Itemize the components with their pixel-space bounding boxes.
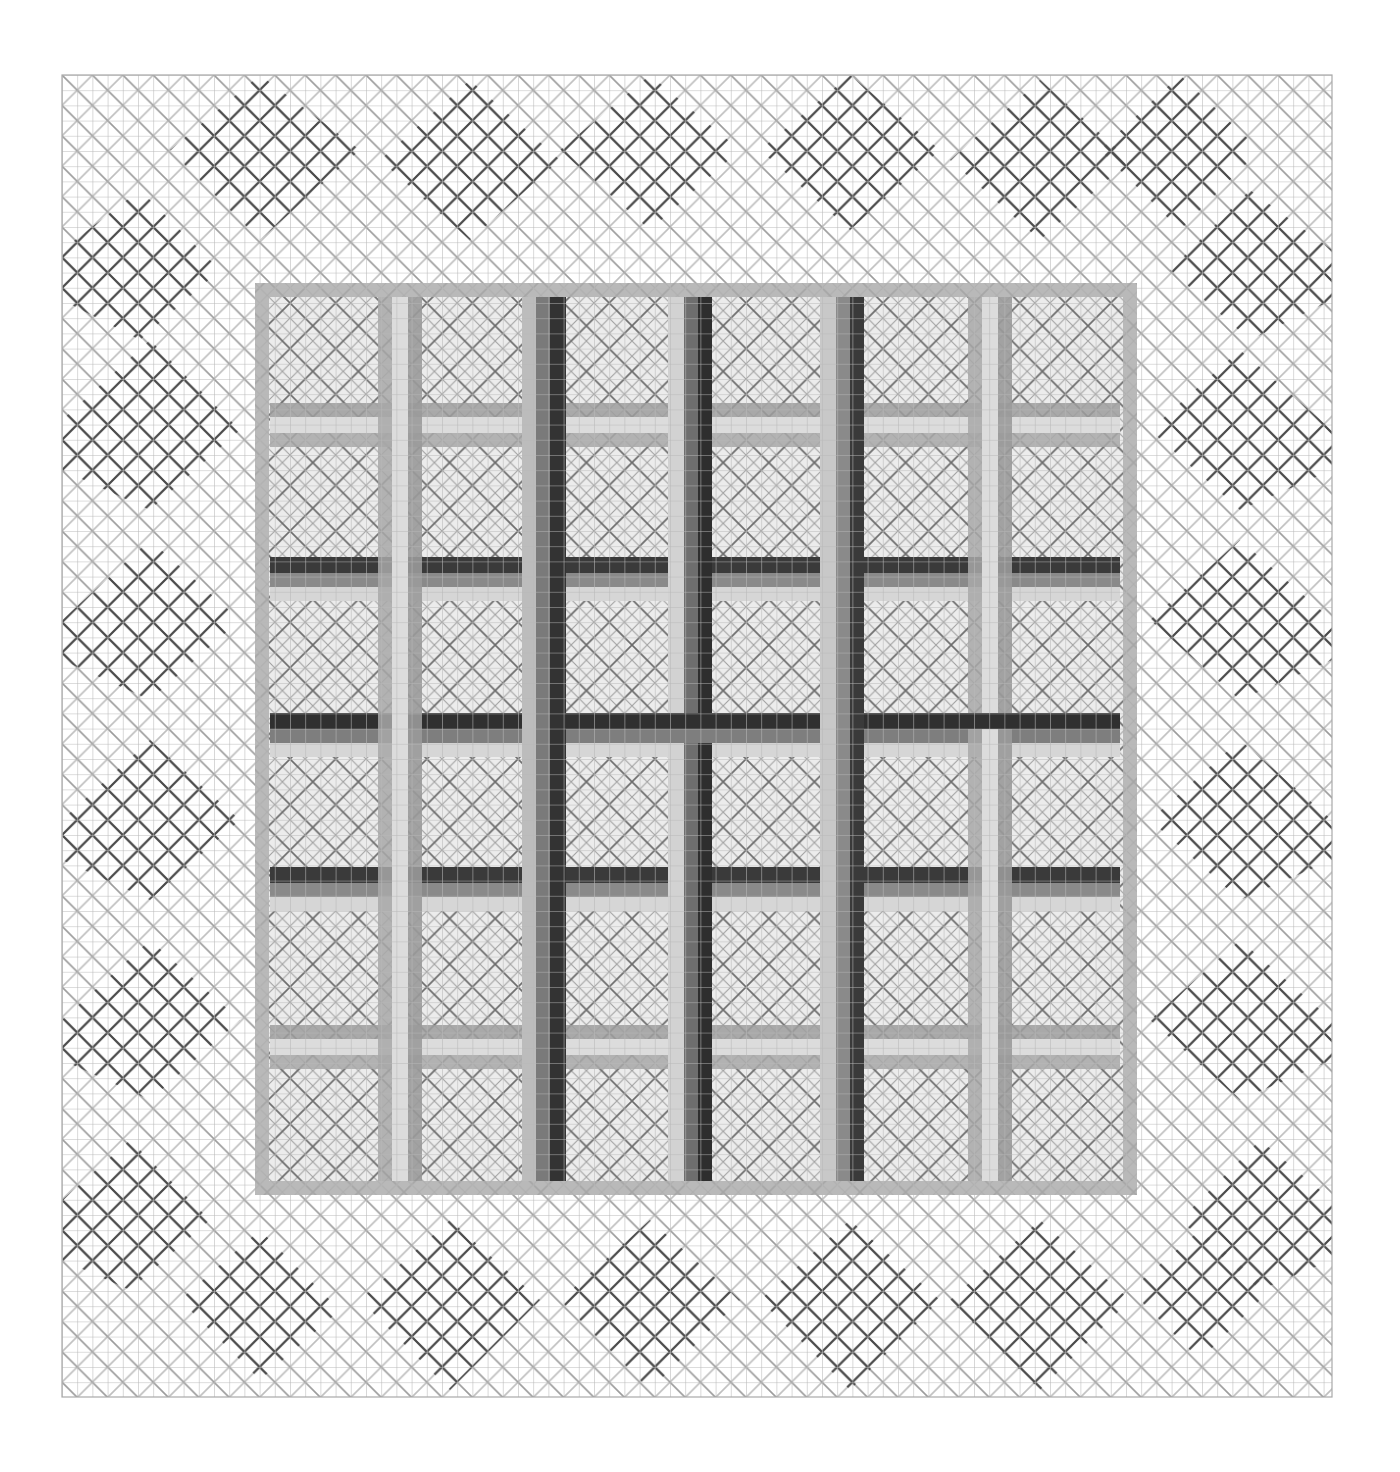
- graph-paper-grid: [62, 75, 1332, 1397]
- woven-lattice-drawing: [0, 0, 1400, 1472]
- artwork-canvas: Woven lattice pattern: square grid of gr…: [0, 0, 1400, 1472]
